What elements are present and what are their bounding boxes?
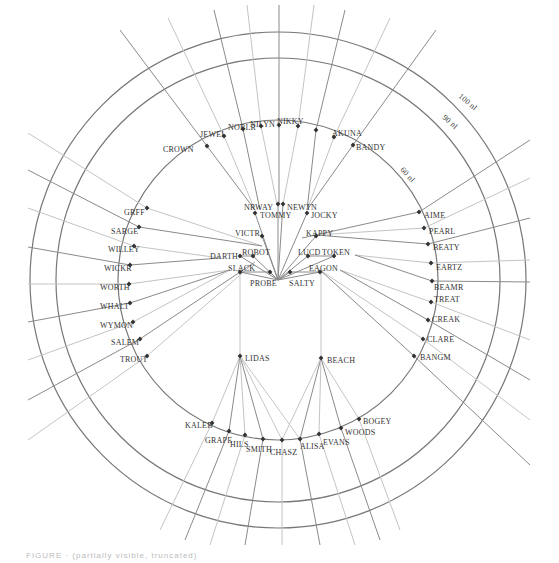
fix-label: GRFF — [124, 208, 145, 217]
fix-labels: CROWNJEWELNOBLRNILYNNIKKYAKUNABANDYGRFFS… — [100, 117, 464, 457]
fix-label: TOMMY — [260, 211, 292, 220]
route-line-outbound — [28, 133, 147, 208]
fix-label: CREAK — [432, 315, 460, 324]
route-line-inbound — [147, 208, 262, 246]
route-line-inbound — [340, 270, 431, 302]
ring-label: 100 nl — [457, 92, 480, 113]
route-line-outbound — [214, 10, 243, 129]
fix-label: AIME — [424, 211, 445, 220]
fix-label: VICTR — [235, 229, 260, 238]
fix-label: BEATY — [433, 243, 460, 252]
ring-label: 90 nl — [441, 113, 460, 132]
route-diagram: 60 nl90 nl100 nl CROWNJEWELNOBLRNILYNNIK… — [0, 0, 559, 563]
fix-label: TREAT — [434, 295, 460, 304]
route-line-inbound — [240, 356, 245, 435]
fix-label: SLACK — [228, 264, 255, 273]
route-line-outbound — [300, 439, 320, 545]
fix-label: SARGE — [111, 227, 138, 236]
fix-label: BANGM — [420, 353, 451, 362]
route-line-outbound — [28, 170, 139, 227]
fix-label: CROWN — [163, 145, 194, 154]
route-line-outbound — [334, 18, 390, 137]
route-line — [282, 358, 321, 440]
fix-marker-icon — [281, 202, 286, 207]
route-line-inbound — [240, 356, 263, 439]
fix-label: EAGON — [309, 264, 338, 273]
fix-label: EARTZ — [436, 263, 462, 272]
route-line-outbound — [28, 339, 140, 400]
route-line-inbound — [240, 356, 282, 440]
fix-label: AKUNA — [332, 129, 362, 138]
fix-label: PEARL — [429, 227, 455, 236]
route-lines — [28, 5, 530, 545]
route-line-inbound — [321, 358, 341, 428]
fix-label: LUCD — [298, 248, 321, 257]
fix-marker-icon — [422, 226, 427, 231]
ring-label: 60 nl — [399, 165, 418, 184]
route-line-inbound — [261, 126, 277, 204]
fix-label: JOCKY — [311, 211, 338, 220]
fix-marker-icon — [280, 438, 285, 443]
fix-marker-icon — [429, 300, 434, 305]
route-line-outbound — [247, 5, 261, 126]
route-line-inbound — [307, 145, 353, 210]
fix-marker-icon — [319, 356, 324, 361]
fix-label: GRAPE — [205, 436, 232, 445]
route-line-outbound — [245, 439, 263, 545]
diagram-canvas: 60 nl90 nl100 nl CROWNJEWELNOBLRNILYNNIK… — [0, 0, 559, 563]
route-line-inbound — [300, 358, 321, 439]
fix-label: WICKR — [104, 264, 132, 273]
route-line-inbound — [320, 270, 414, 356]
route-line-outbound — [185, 431, 229, 540]
fix-label: TROUT — [120, 355, 148, 364]
fix-label: WOODS — [345, 428, 375, 437]
route-line-outbound — [428, 320, 530, 380]
fix-label: SALTY — [289, 279, 315, 288]
fix-label: DARTH — [210, 252, 238, 261]
fix-markers — [127, 123, 435, 443]
fix-label: WYMON — [100, 321, 133, 330]
fix-label: PROBE — [250, 279, 277, 288]
route-line-outbound — [432, 281, 530, 282]
fix-label: EVANS — [323, 438, 350, 447]
fix-marker-icon — [426, 242, 431, 247]
fix-marker-icon — [261, 437, 266, 442]
route-line-inbound — [147, 262, 255, 356]
route-line-inbound — [130, 270, 230, 303]
fix-label: BEACH — [327, 356, 355, 365]
route-line-inbound — [212, 356, 240, 423]
fix-label: BANDY — [356, 143, 385, 152]
route-line-inbound — [129, 270, 230, 284]
fix-label: NILYN — [250, 120, 275, 129]
route-line-inbound — [130, 258, 220, 265]
fix-label: ALISA — [300, 442, 325, 451]
fix-marker-icon — [314, 128, 319, 133]
route-line-inbound — [207, 146, 255, 210]
fix-label: BEAMR — [434, 283, 464, 292]
fix-label: CLARE — [427, 335, 454, 344]
fix-label: SALEM — [111, 338, 139, 347]
fix-label: CHASZ — [270, 448, 297, 457]
fix-label: WILLEY — [108, 245, 140, 254]
fix-label: SMITH — [246, 445, 272, 454]
fix-label: JEWEL — [200, 130, 226, 139]
fix-marker-icon — [429, 261, 434, 266]
route-line-outbound — [316, 10, 345, 130]
route-line-outbound — [414, 356, 530, 465]
route-line-outbound — [168, 18, 224, 136]
route-line-inbound — [321, 358, 359, 419]
figure-caption: FIGURE · (partially visible, truncated) — [26, 551, 197, 560]
route-line-inbound — [224, 136, 255, 210]
fix-label: ROBOT — [242, 248, 270, 257]
route-line-inbound — [134, 246, 220, 258]
route-line-inbound — [283, 126, 298, 204]
fix-label: LIDAS — [245, 354, 270, 363]
route-line-inbound — [320, 270, 423, 339]
fix-label: BOGEY — [363, 417, 392, 426]
fix-label: KALEB — [185, 421, 213, 430]
route-line-outbound — [210, 435, 245, 545]
fix-label: TOKEN — [322, 248, 350, 257]
fix-label: WHALT — [100, 302, 129, 311]
route-line-outbound — [298, 5, 314, 126]
route-line-inbound — [319, 358, 321, 434]
